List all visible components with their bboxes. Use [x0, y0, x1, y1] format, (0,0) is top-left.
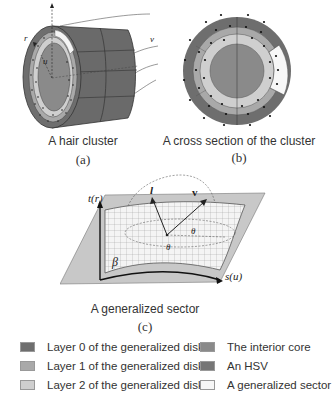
- theta-2-label: θ: [191, 226, 196, 236]
- panel-b-caption: A cross section of the cluster: [156, 134, 322, 148]
- legend-swatch-layer0: [20, 342, 35, 352]
- theta-1-label: θ: [166, 242, 171, 252]
- panel-b-label: (b): [156, 150, 322, 166]
- hair-cluster-figure: r u v: [0, 0, 166, 135]
- legend-label: The interior core: [227, 341, 311, 353]
- legend-label: Layer 2 of the generalized disk: [47, 379, 204, 391]
- vector-v-label: v: [192, 186, 198, 198]
- legend-item-layer2: Layer 2 of the generalized disk: [20, 378, 204, 392]
- axis-r-label: r: [24, 33, 28, 43]
- axis-v-label: v: [150, 34, 154, 44]
- legend-swatch-core: [200, 342, 215, 352]
- panel-a-caption: A hair cluster: [0, 134, 166, 148]
- legend-swatch-layer1: [20, 361, 35, 371]
- panel-c-label: (c): [35, 319, 255, 335]
- legend-item-core: The interior core: [200, 340, 311, 354]
- panel-c: t(r) s(u) β l v θ θ A generalized sector…: [60, 170, 280, 340]
- panel-b: A cross section of the cluster (b): [166, 0, 332, 170]
- generalized-sector-figure: t(r) s(u) β l v θ θ: [60, 170, 280, 295]
- legend-swatch-layer2: [20, 380, 35, 390]
- legend-swatch-hsv: [200, 361, 215, 371]
- beta-label: β: [111, 255, 118, 269]
- cross-section-figure: [166, 0, 332, 135]
- legend-label: Layer 1 of the generalized disk: [47, 360, 204, 372]
- legend-label: A generalized sector: [227, 379, 331, 391]
- panel-c-caption: A generalized sector: [35, 302, 255, 316]
- panel-a: r u v A hair cluster (a): [0, 0, 166, 170]
- legend-item-hsv: An HSV: [200, 359, 268, 373]
- legend-swatch-sector: [200, 380, 215, 390]
- axis-u-label: u: [43, 56, 48, 66]
- panel-a-label: (a): [0, 152, 166, 168]
- legend-label: An HSV: [227, 360, 268, 372]
- legend-item-sector: A generalized sector: [200, 378, 331, 392]
- axis-t-label: t(r): [88, 192, 103, 205]
- axis-s-label: s(u): [225, 270, 242, 283]
- legend-item-layer1: Layer 1 of the generalized disk: [20, 359, 204, 373]
- legend-label: Layer 0 of the generalized disk: [47, 341, 204, 353]
- legend-item-layer0: Layer 0 of the generalized disk: [20, 340, 204, 354]
